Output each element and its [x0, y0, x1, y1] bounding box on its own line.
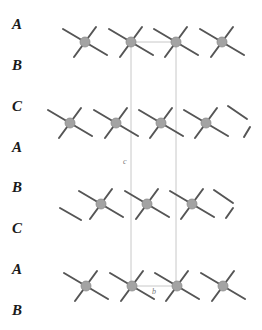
stacking-layer-label: B — [12, 58, 22, 73]
crystal-structure-diagram: ABCABCAB cb — [0, 0, 262, 330]
stacking-layer-label: A — [12, 262, 22, 277]
stacking-layer-label: C — [12, 99, 22, 114]
atom-node — [218, 281, 228, 291]
atoms — [65, 37, 228, 291]
atom-node — [142, 199, 152, 209]
atom-node — [187, 199, 197, 209]
atom-node — [80, 37, 90, 47]
bond-partial — [228, 106, 247, 119]
atom-node — [172, 281, 182, 291]
atom-node — [171, 37, 181, 47]
atom-node — [65, 118, 75, 128]
bond-partial — [60, 208, 81, 220]
atom-node — [127, 281, 137, 291]
bond-partial — [214, 190, 233, 203]
atom-node — [126, 37, 136, 47]
unit-cell-outline — [131, 42, 176, 286]
atom-node — [111, 118, 121, 128]
stacking-layer-label: B — [12, 303, 22, 318]
atom-node — [156, 118, 166, 128]
stacking-layer-label: C — [12, 221, 22, 236]
stacking-layer-label: A — [12, 17, 22, 32]
atom-node — [96, 199, 106, 209]
axis-label-c: c — [123, 158, 127, 166]
atom-node — [217, 37, 227, 47]
atom-node — [81, 281, 91, 291]
stacking-layer-label: B — [12, 180, 22, 195]
bonds — [48, 27, 250, 301]
bond-partial — [226, 208, 233, 218]
layer-stacking-diagram — [0, 0, 262, 330]
axis-label-b: b — [152, 288, 156, 296]
stacking-layer-label: A — [12, 140, 22, 155]
atom-node — [201, 118, 211, 128]
bond-partial — [244, 127, 250, 137]
